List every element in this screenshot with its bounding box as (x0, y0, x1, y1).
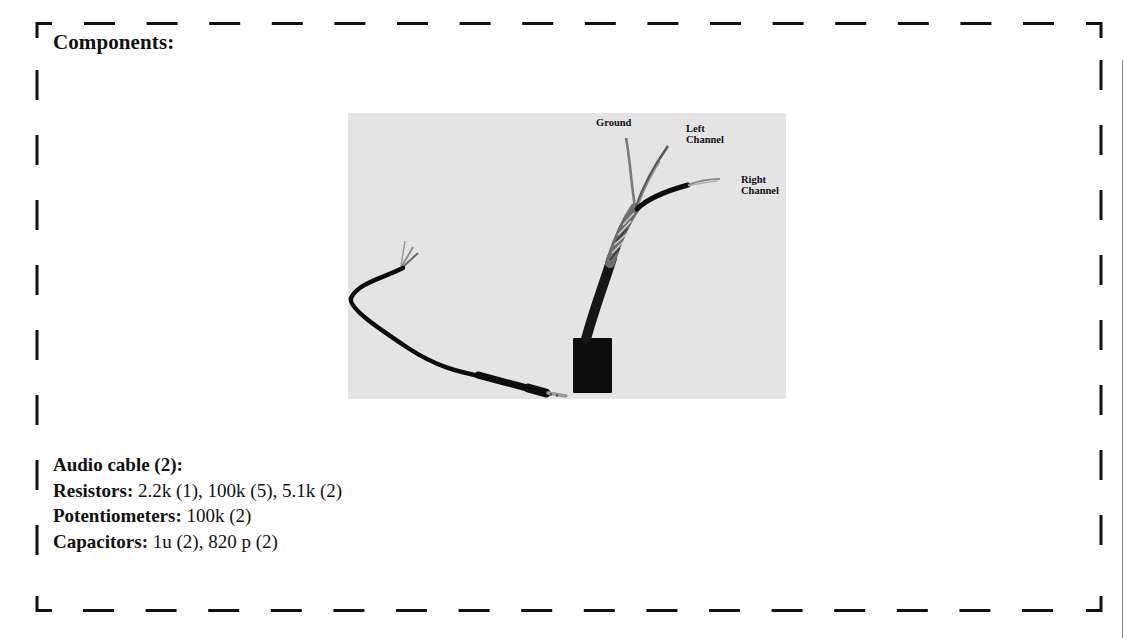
cable-illustration (348, 113, 786, 399)
component-audio-cable: Audio cable (2): (53, 452, 342, 478)
component-capacitors: Capacitors: 1u (2), 820 p (2) (53, 529, 342, 555)
component-label: Audio cable (2): (53, 454, 183, 475)
components-list: Audio cable (2): Resistors: 2.2k (1), 10… (53, 452, 342, 554)
component-resistors: Resistors: 2.2k (1), 100k (5), 5.1k (2) (53, 478, 342, 504)
component-potentiometers: Potentiometers: 100k (2) (53, 503, 342, 529)
component-value: 100k (2) (182, 505, 252, 526)
component-label: Capacitors: (53, 531, 148, 552)
label-ground: Ground (596, 117, 631, 128)
component-value: 2.2k (1), 100k (5), 5.1k (2) (133, 480, 342, 501)
black-connector-block (573, 338, 612, 393)
label-right-channel: Right Channel (741, 174, 779, 196)
component-label: Potentiometers: (53, 505, 182, 526)
page-edge-line (1122, 60, 1123, 638)
component-value: 1u (2), 820 p (2) (148, 531, 278, 552)
label-left-channel: Left Channel (686, 123, 724, 145)
component-label: Resistors: (53, 480, 133, 501)
section-heading: Components: (53, 30, 174, 55)
audio-cable-photo: Ground Left Channel Right Channel (348, 113, 786, 399)
